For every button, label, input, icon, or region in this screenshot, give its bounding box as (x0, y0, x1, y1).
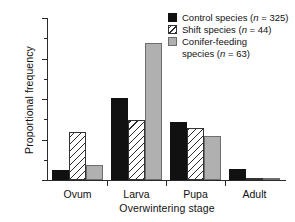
legend-item-conifer: Conifer-feeding (168, 36, 288, 47)
bar-larva-shift (128, 120, 145, 180)
x-tick-sep-2 (166, 181, 167, 186)
bar-adult-shift (246, 178, 263, 180)
y-axis-line (47, 18, 48, 181)
chart-legend: Control species (n = 325) Shift species … (168, 12, 288, 59)
legend-item-conifer-line2: species (n = 63) (168, 48, 288, 59)
y-tick-minor-0.5 (44, 79, 47, 80)
y-tick-minor-0.3 (44, 119, 47, 120)
legend-swatch-control-icon (168, 13, 177, 22)
y-tick-major-0 (42, 180, 47, 181)
bar-larva-conifer (145, 43, 162, 181)
y-tick-major-0.2 (42, 140, 47, 141)
bar-ovum-control (52, 170, 69, 180)
legend-label-conifer-cont-pre: species ( (182, 48, 220, 59)
x-axis-title: Overwintering stage (48, 202, 286, 214)
bar-larva-control (111, 98, 128, 180)
legend-label-control-pre: Control species ( (182, 12, 253, 23)
bar-pupa-conifer (204, 136, 221, 180)
y-tick-major-0.8 (42, 18, 47, 19)
x-tick-label-adult: Adult (220, 188, 290, 200)
legend-label-conifer-pre: Conifer-feeding (182, 36, 247, 47)
bar-adult-conifer (263, 178, 280, 180)
legend-item-control: Control species (n = 325) (168, 12, 288, 23)
legend-swatch-conifer-icon (168, 37, 177, 46)
bar-adult-control (229, 169, 246, 180)
y-tick-minor-0.7 (44, 38, 47, 39)
bar-ovum-conifer (86, 165, 103, 180)
y-axis-title: Proportional frequency (23, 20, 35, 180)
legend-item-shift: Shift species (n = 44) (168, 24, 288, 35)
x-tick-sep-3 (225, 181, 226, 186)
legend-swatch-shift-icon (168, 25, 177, 34)
bar-chart-figure: Proportional frequency 0 0.2 0.4 0.6 0.8… (0, 0, 295, 222)
legend-label-conifer-cont-post: = 63) (225, 48, 250, 59)
bar-ovum-shift (69, 132, 86, 180)
y-tick-minor-0.1 (44, 160, 47, 161)
y-tick-major-0.4 (42, 99, 47, 100)
legend-label-control-post: = 325) (259, 12, 289, 23)
legend-label-shift-pre: Shift species ( (182, 24, 242, 35)
bar-pupa-control (170, 122, 187, 181)
legend-label-shift-post: = 44) (247, 24, 272, 35)
x-tick-sep-1 (107, 181, 108, 186)
y-tick-major-0.6 (42, 59, 47, 60)
bar-pupa-shift (187, 128, 204, 180)
